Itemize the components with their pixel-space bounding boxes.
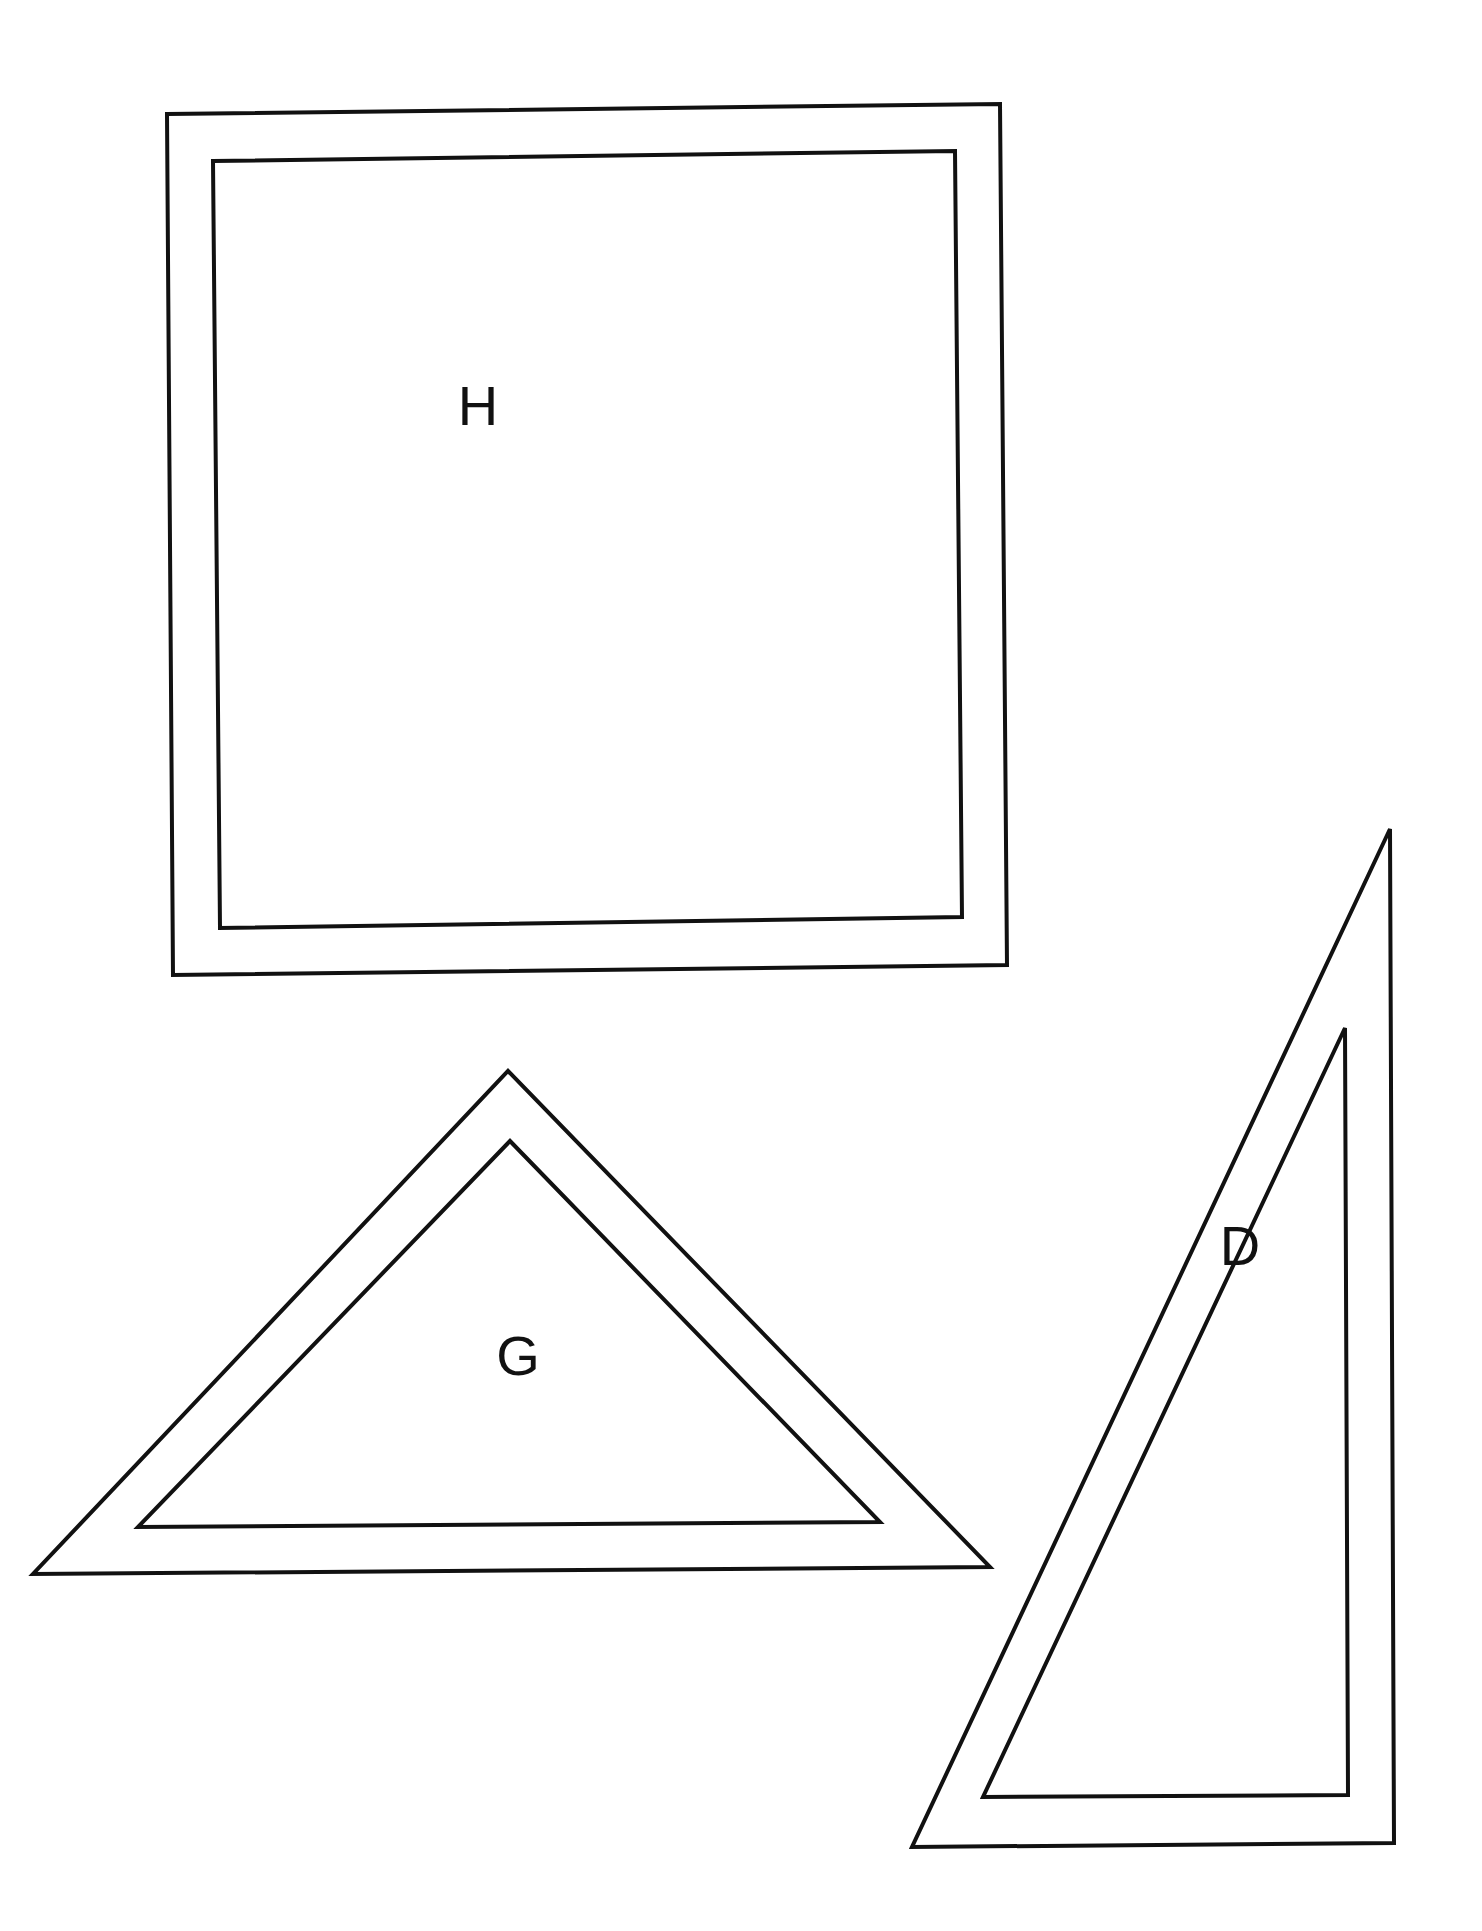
shape-g-outer-triangle <box>33 1071 990 1574</box>
shape-d-label: D <box>1220 1214 1260 1277</box>
shapes-drawing: H G D <box>0 0 1482 1931</box>
shape-h-group[interactable]: H <box>167 104 1007 975</box>
shape-h-label: H <box>458 374 498 437</box>
shape-h-outer-square <box>167 104 1007 975</box>
shape-g-label: G <box>496 1324 540 1387</box>
shape-d-outer-triangle <box>912 829 1394 1847</box>
shape-h-inner-square <box>213 151 962 928</box>
shape-d-inner-triangle <box>983 1028 1348 1797</box>
shape-g-group[interactable]: G <box>33 1071 990 1574</box>
shape-d-group[interactable]: D <box>912 829 1394 1847</box>
worksheet-canvas: H G D <box>0 0 1482 1931</box>
